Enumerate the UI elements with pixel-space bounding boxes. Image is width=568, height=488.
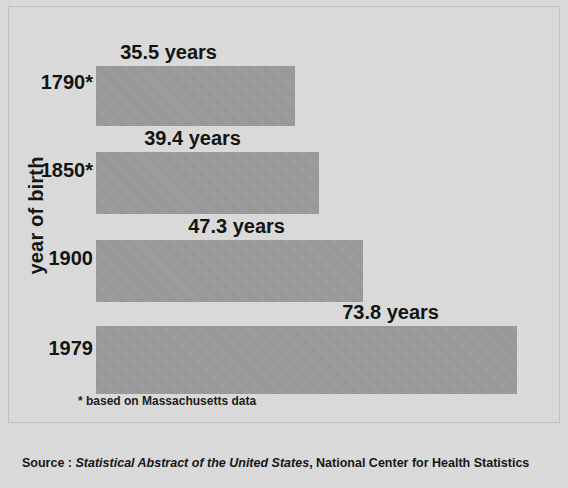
y-axis-title: year of birth bbox=[19, 7, 53, 424]
source-publication-title: Statistical Abstract of the United State… bbox=[76, 456, 310, 470]
bar bbox=[96, 152, 319, 214]
bar-value-label: 73.8 years bbox=[342, 301, 439, 324]
y-axis-title-text: year of birth bbox=[25, 156, 48, 274]
bar-row: 1850* 39.4 years bbox=[9, 127, 561, 213]
plot-area: 1790* 35.5 years 1850* 39.4 years 1900 4… bbox=[9, 7, 561, 424]
bar-value-label: 35.5 years bbox=[120, 41, 217, 64]
bar-value-label: 47.3 years bbox=[188, 215, 285, 238]
source-suffix: , National Center for Health Statistics bbox=[309, 456, 529, 470]
bar bbox=[96, 326, 517, 394]
bar-row: 1900 47.3 years bbox=[9, 215, 561, 301]
bar bbox=[96, 240, 363, 302]
chart-figure: year of birth 1790* 35.5 years 1850* 39.… bbox=[0, 0, 568, 488]
bar-value-label: 39.4 years bbox=[144, 127, 241, 150]
source-prefix: Source : bbox=[22, 456, 72, 470]
bar-row: 1979 73.8 years bbox=[9, 301, 561, 393]
bar bbox=[96, 66, 295, 126]
bar-row: 1790* 35.5 years bbox=[9, 41, 561, 125]
source-line: Source : Statistical Abstract of the Uni… bbox=[22, 456, 529, 470]
chart-panel: year of birth 1790* 35.5 years 1850* 39.… bbox=[8, 6, 560, 423]
footnote: * based on Massachusetts data bbox=[78, 394, 256, 408]
